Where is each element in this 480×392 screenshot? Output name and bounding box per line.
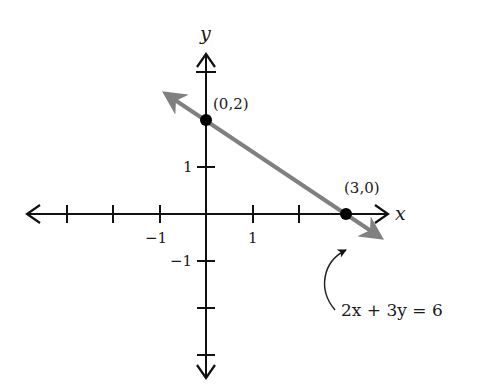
x-axis-label: x bbox=[395, 202, 406, 224]
point-0-2 bbox=[200, 114, 212, 126]
y-axis-label: y bbox=[199, 22, 211, 44]
y-tick-label-1: 1 bbox=[183, 158, 193, 176]
point-label-3-0: (3,0) bbox=[344, 179, 380, 197]
point-3-0 bbox=[340, 208, 352, 220]
x-tick-label-neg1: −1 bbox=[145, 229, 167, 247]
x-tick-label-1: 1 bbox=[248, 229, 258, 247]
point-label-0-2: (0,2) bbox=[213, 95, 249, 113]
y-tick-label-neg1: −1 bbox=[170, 252, 192, 270]
coordinate-plane: y x −1 1 1 −1 (0,2) (3,0) 2x + 3y = 6 bbox=[0, 0, 480, 392]
equation-label: 2x + 3y = 6 bbox=[341, 300, 443, 320]
